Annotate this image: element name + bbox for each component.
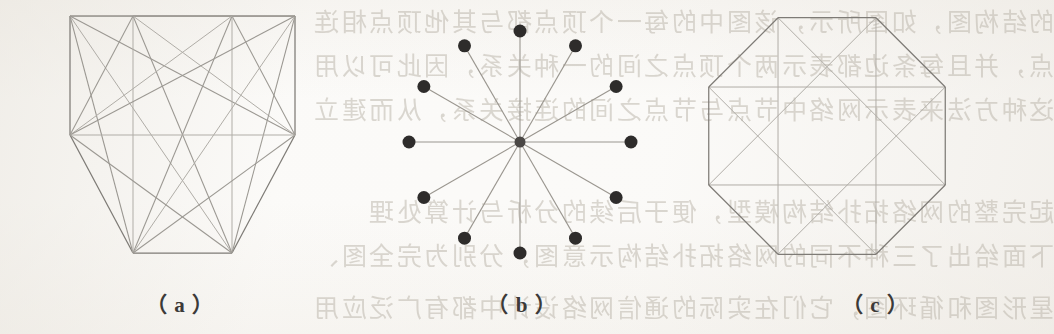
graph-leaf-node — [417, 191, 430, 204]
octagon-perimeter-edge — [709, 18, 778, 87]
graph-edge — [70, 16, 133, 135]
graph-leaf-node — [514, 25, 527, 38]
scanned-page: 的结构图，如图所示，该图中的每一个顶点都与其他顶点相连 点，并且每条边都表示两个… — [0, 0, 1054, 334]
graph-edge — [70, 135, 133, 253]
graph-spoke — [520, 142, 616, 198]
octagon-perimeter-edge — [709, 185, 778, 254]
graph-spoke — [520, 142, 576, 238]
figure-panel-c: （ c ） — [697, 0, 1054, 334]
caption-a: （ a ） — [0, 288, 360, 318]
octagon-perimeter-edge — [876, 18, 945, 87]
graph-edge — [232, 135, 295, 253]
graph-spoke — [424, 87, 520, 143]
graph-leaf-node — [610, 80, 623, 93]
graph-c-octagon-star-polygon — [697, 0, 1054, 285]
graph-leaf-node — [514, 247, 527, 260]
graph-leaf-node — [417, 80, 430, 93]
star-polygon-edge — [709, 87, 876, 254]
caption-c: （ c ） — [697, 288, 1054, 318]
figure-panel-a: （ a ） — [0, 0, 360, 334]
star-polygon-edge — [778, 87, 945, 254]
graph-leaf-node — [458, 39, 471, 52]
graph-spoke — [424, 142, 520, 198]
graph-leaf-node — [569, 39, 582, 52]
star-polygon-edge — [778, 18, 945, 185]
caption-b: （ b ） — [347, 288, 697, 318]
graph-leaf-node — [403, 136, 416, 149]
graph-spoke — [465, 46, 521, 142]
graph-hub-node — [515, 137, 526, 148]
graph-leaf-node — [458, 232, 471, 245]
graph-leaf-node — [569, 232, 582, 245]
graph-spoke — [520, 46, 576, 142]
star-polygon-edge — [709, 18, 876, 185]
graph-a-complete-octagon — [0, 0, 360, 285]
graph-spoke — [465, 142, 521, 238]
graph-edge — [232, 16, 295, 135]
graph-b-star-hub — [347, 0, 697, 285]
graph-leaf-node — [610, 191, 623, 204]
graph-spoke — [520, 87, 616, 143]
graph-leaf-node — [625, 136, 638, 149]
figure-panel-b: （ b ） — [347, 0, 697, 334]
octagon-perimeter-edge — [876, 185, 945, 254]
